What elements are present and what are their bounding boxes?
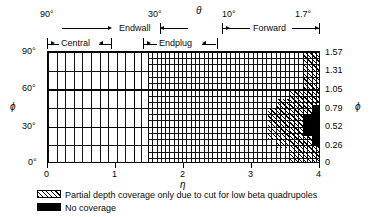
forward-tick-right bbox=[319, 23, 320, 34]
endplug-tick-right bbox=[217, 38, 218, 49]
phi-right-tick-157: 1.57 bbox=[325, 48, 343, 57]
phi-right-tick-052: 0.52 bbox=[325, 122, 343, 131]
region-label-endplug: Endplug bbox=[159, 39, 192, 48]
theta-label-90deg: 90° bbox=[40, 10, 54, 19]
xtick-label-4: 4 bbox=[316, 170, 321, 179]
xtick-label-0: 0 bbox=[44, 170, 49, 179]
central-arrow-right bbox=[99, 41, 103, 45]
xtick-3 bbox=[251, 163, 252, 168]
central-tick-right bbox=[111, 38, 112, 49]
no-coverage-cell bbox=[312, 105, 320, 146]
theta-label-1p7deg: 1.7° bbox=[295, 10, 311, 19]
theta-axis-symbol: θ bbox=[196, 6, 201, 16]
legend-label-partial: Partial depth coverage only due to cut f… bbox=[65, 190, 317, 200]
phi-left-tick-30: 30° bbox=[22, 122, 36, 131]
phi-left-tick-60: 60° bbox=[22, 84, 36, 93]
phi-right-tick-131: 1.31 bbox=[325, 66, 343, 75]
phi-right-tick-105: 1.05 bbox=[325, 85, 343, 94]
plot-area bbox=[47, 51, 320, 163]
endplug-arrow-right bbox=[202, 41, 206, 45]
phi-left-tick-0: 0° bbox=[28, 158, 37, 167]
phi-right-tick-026: 0.26 bbox=[325, 141, 343, 150]
separator-central-endwall bbox=[134, 52, 135, 162]
separator-endplug-forward bbox=[212, 52, 213, 162]
coverage-figure: 90° 30° θ 10° 1.7° Endwall Forward Centr… bbox=[0, 0, 379, 217]
xtick-1 bbox=[115, 163, 116, 168]
region-label-endwall: Endwall bbox=[119, 24, 151, 33]
phi-right-axis-symbol: ϕ bbox=[355, 102, 361, 112]
endplug-rail-left bbox=[143, 44, 157, 45]
phi-left-axis-symbol: ϕ bbox=[10, 102, 16, 112]
xtick-label-2: 2 bbox=[180, 170, 185, 179]
forward-rail-left bbox=[222, 28, 250, 29]
xtick-label-1: 1 bbox=[112, 170, 117, 179]
phi-left-tick-90: 90° bbox=[22, 47, 36, 56]
xtick-4 bbox=[319, 163, 320, 168]
xtick-label-3: 3 bbox=[248, 170, 253, 179]
partial-coverage-cell bbox=[277, 99, 290, 148]
theta-label-10deg: 10° bbox=[222, 10, 236, 19]
xtick-2 bbox=[183, 163, 184, 168]
legend-label-nocoverage: No coverage bbox=[65, 203, 116, 213]
endwall-arrow-left bbox=[160, 26, 164, 30]
endwall-rail-left bbox=[62, 28, 110, 29]
legend-swatch-nocoverage bbox=[37, 203, 61, 211]
theta-label-30deg: 30° bbox=[148, 10, 162, 19]
phi-right-tick-0: 0 bbox=[325, 158, 330, 167]
region-label-forward: Forward bbox=[253, 24, 286, 33]
partial-coverage-cell bbox=[290, 89, 303, 163]
phi-right-tick-079: 0.79 bbox=[325, 104, 343, 113]
legend-swatch-partial bbox=[37, 190, 61, 198]
partial-coverage-cell bbox=[268, 108, 277, 139]
endwall-arrow-right bbox=[108, 26, 112, 30]
no-coverage-cell bbox=[303, 114, 312, 136]
central-rail-left bbox=[47, 44, 59, 45]
separator-endwall-endplug bbox=[148, 52, 149, 162]
endwall-rail-right bbox=[160, 28, 188, 29]
xtick-0 bbox=[47, 163, 48, 168]
region-label-central: Central bbox=[61, 39, 90, 48]
eta-axis-symbol: η bbox=[180, 180, 186, 190]
